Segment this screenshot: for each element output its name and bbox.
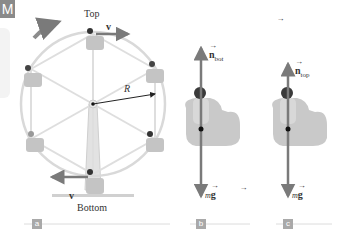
label-normal-bottom: nbot xyxy=(209,50,224,63)
panel-tag-a: a xyxy=(32,219,42,229)
label-weight-b: mg xyxy=(205,190,216,200)
mass-symbol: m xyxy=(205,191,211,200)
free-body-top xyxy=(272,64,327,196)
ferris-wheel xyxy=(21,22,165,197)
gravity-symbol: g xyxy=(211,189,216,200)
label-weight-c: mg xyxy=(292,190,303,200)
normal-symbol: n xyxy=(209,49,215,60)
panel-tag-b: b xyxy=(196,219,206,229)
label-bottom: Bottom xyxy=(77,203,107,213)
label-top: Top xyxy=(84,9,99,19)
free-body-bottom xyxy=(185,48,240,196)
normal-subscript: top xyxy=(301,71,310,79)
label-velocity-top: v xyxy=(106,22,349,32)
rotation-arrow-icon xyxy=(34,22,58,38)
label-radius: R xyxy=(124,84,130,94)
panel-tag-c: c xyxy=(283,219,293,229)
gravity-symbol: g xyxy=(298,189,303,200)
normal-symbol: n xyxy=(295,65,301,76)
mass-symbol: m xyxy=(292,191,298,200)
label-normal-top: ntop xyxy=(295,66,310,79)
normal-subscript: bot xyxy=(215,55,224,63)
